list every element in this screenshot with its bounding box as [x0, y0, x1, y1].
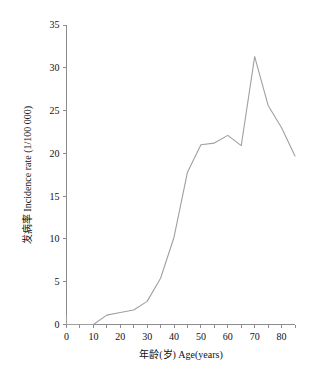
chart-figure: 05101520253035 01020304050607080 年龄(岁) A… — [0, 0, 316, 391]
y-tick-label: 20 — [50, 148, 60, 159]
x-tick-label: 80 — [277, 331, 287, 342]
y-axis-title: 发病率 Incidence rate (1/100 000) — [21, 106, 34, 244]
x-axis-title: 年龄(岁) Age(years) — [139, 348, 223, 361]
x-tick-label: 30 — [142, 331, 152, 342]
x-tick-label: 10 — [88, 331, 98, 342]
x-tick-label: 40 — [169, 331, 179, 342]
y-tick-group — [63, 25, 67, 325]
x-tick-group — [67, 325, 296, 329]
incidence-rate-line — [67, 57, 296, 325]
x-tick-label: 0 — [64, 331, 69, 342]
y-tick-label: 30 — [50, 62, 60, 73]
y-tick-label: 25 — [50, 105, 60, 116]
x-tick-label: 20 — [115, 331, 125, 342]
y-tick-label-group: 05101520253035 — [50, 19, 60, 330]
y-tick-label: 5 — [55, 276, 60, 287]
y-tick-label: 0 — [55, 319, 60, 330]
x-tick-label-group: 01020304050607080 — [64, 331, 287, 342]
incidence-by-age-line-chart: 05101520253035 01020304050607080 年龄(岁) A… — [0, 0, 316, 391]
x-tick-label: 70 — [250, 331, 260, 342]
y-tick-label: 35 — [50, 19, 60, 30]
y-tick-label: 10 — [50, 233, 60, 244]
y-tick-label: 15 — [50, 191, 60, 202]
x-tick-label: 60 — [223, 331, 233, 342]
x-tick-label: 50 — [196, 331, 206, 342]
